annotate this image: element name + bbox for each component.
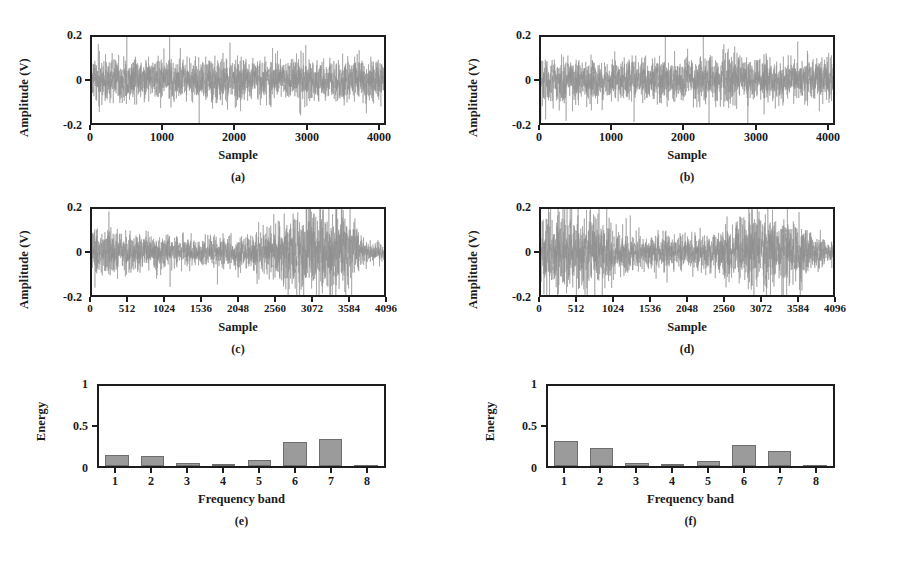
panel-f-caption: (f) — [546, 514, 835, 529]
panel-f-xtick-4: 5 — [705, 474, 711, 489]
panel-a-xlabel: Sample — [90, 148, 386, 163]
panel-f-xtick-1: 2 — [597, 474, 603, 489]
panel-f-xtick-mark-1 — [599, 468, 601, 473]
panel-b-xtick-0: 0 — [536, 130, 542, 145]
panel-f-xtick-7: 8 — [813, 474, 819, 489]
panel-f-bars — [548, 386, 833, 466]
panel-d-waveform — [541, 209, 833, 295]
panel-d-xtick-3: 1536 — [639, 302, 661, 314]
panel-d-ytick-0: 0.2 — [491, 200, 531, 215]
bar-band-3 — [625, 463, 649, 466]
panel-f-ylabel: Energy — [483, 387, 498, 457]
bar-band-4 — [661, 464, 685, 466]
panel-e-xtick-2: 3 — [184, 474, 190, 489]
panel-c-ytick-0: 0.2 — [42, 200, 82, 215]
panel-d-xlabel: Sample — [539, 320, 835, 335]
bar-band-1 — [554, 441, 578, 466]
panel-f-ytick-0: 1 — [499, 377, 537, 392]
panel-e-xtick-mark-2 — [186, 468, 188, 473]
panel-e: Energy 1 0.5 0 1 2 3 4 5 6 7 8 Frequency… — [0, 376, 449, 562]
panel-c-xtick-8: 4096 — [375, 302, 397, 314]
panel-e-ytick-1: 0.5 — [50, 419, 88, 434]
panel-b-xtick-3: 3000 — [744, 130, 768, 145]
panel-b-xtick-4: 4000 — [816, 130, 840, 145]
panel-e-caption: (e) — [97, 514, 386, 529]
panel-f-xtick-mark-3 — [671, 468, 673, 473]
panel-f-xtick-6: 7 — [777, 474, 783, 489]
panel-f-xtick-mark-6 — [779, 468, 781, 473]
figure-canvas: Amplitude (V) 0.2 0 -0.2 0 1000 2000 300… — [0, 0, 898, 562]
panel-c-ylabel: Amplitude (V) — [17, 225, 32, 315]
bar-band-2 — [141, 456, 165, 466]
panel-f-xtick-mark-5 — [743, 468, 745, 473]
bar-band-6 — [732, 445, 756, 466]
bar-band-5 — [697, 461, 721, 466]
panel-a-xtick-1: 1000 — [150, 130, 174, 145]
panel-b-xtick-2: 2000 — [671, 130, 695, 145]
panel-f-ytick-2: 0 — [499, 461, 537, 476]
panel-e-xtick-0: 1 — [112, 474, 118, 489]
panel-a-ytick-0: 0.2 — [42, 28, 82, 43]
panel-c-plot — [90, 207, 386, 297]
panel-f-xtick-mark-4 — [707, 468, 709, 473]
panel-c-caption: (c) — [90, 342, 386, 357]
panel-a-ytick-1: 0 — [42, 73, 82, 88]
panel-c-ytick-1: 0 — [42, 245, 82, 260]
panel-f-xtick-3: 4 — [669, 474, 675, 489]
panel-c-xtick-1: 512 — [119, 302, 136, 314]
panel-e-ylabel: Energy — [34, 387, 49, 457]
panel-c-xtick-6: 3072 — [301, 302, 323, 314]
bar-band-1 — [105, 455, 129, 466]
panel-a-xtick-4: 4000 — [367, 130, 391, 145]
panel-c-xtick-5: 2560 — [264, 302, 286, 314]
bar-band-7 — [768, 451, 792, 466]
panel-d-xtick-6: 3072 — [750, 302, 772, 314]
panel-f-xtick-mark-7 — [815, 468, 817, 473]
panel-f-xtick-0: 1 — [561, 474, 567, 489]
panel-b-ytick-1: 0 — [491, 73, 531, 88]
panel-d-xtick-8: 4096 — [824, 302, 846, 314]
panel-d-xtick-4: 2048 — [676, 302, 698, 314]
panel-e-xtick-mark-7 — [366, 468, 368, 473]
panel-f-xtick-mark-0 — [563, 468, 565, 473]
panel-b-ylabel: Amplitude (V) — [466, 53, 481, 143]
panel-f-xtick-mark-2 — [635, 468, 637, 473]
panel-b-plot — [539, 35, 835, 125]
panel-d-plot — [539, 207, 835, 297]
panel-d-xtick-7: 3584 — [787, 302, 809, 314]
panel-c-xtick-2: 1024 — [153, 302, 175, 314]
panel-d-xtick-0: 0 — [536, 302, 542, 314]
panel-d-xtick-1: 512 — [568, 302, 585, 314]
panel-b-waveform — [541, 37, 833, 123]
panel-e-xtick-5: 6 — [292, 474, 298, 489]
panel-d-ytick-2: -0.2 — [491, 290, 531, 305]
panel-d-xtick-2: 1024 — [602, 302, 624, 314]
panel-d-xtick-5: 2560 — [713, 302, 735, 314]
panel-a-waveform — [92, 37, 384, 123]
panel-e-xtick-4: 5 — [256, 474, 262, 489]
panel-b-caption: (b) — [539, 170, 835, 185]
panel-c-xlabel: Sample — [90, 320, 386, 335]
panel-e-xtick-1: 2 — [148, 474, 154, 489]
panel-c-xtick-0: 0 — [87, 302, 93, 314]
panel-e-xtick-7: 8 — [364, 474, 370, 489]
panel-b-xlabel: Sample — [539, 148, 835, 163]
panel-a-plot — [90, 35, 386, 125]
bar-band-6 — [283, 442, 307, 466]
panel-b-ytick-2: -0.2 — [491, 118, 531, 133]
panel-b-xtick-1: 1000 — [599, 130, 623, 145]
bar-band-8 — [803, 465, 827, 466]
bar-band-4 — [212, 464, 236, 466]
panel-b-ytick-0: 0.2 — [491, 28, 531, 43]
panel-a-xtick-3: 3000 — [295, 130, 319, 145]
panel-f-ytick-1: 0.5 — [499, 419, 537, 434]
panel-c-xtick-4: 2048 — [227, 302, 249, 314]
bar-band-3 — [176, 463, 200, 466]
panel-e-xtick-mark-3 — [222, 468, 224, 473]
panel-a-ylabel: Amplitude (V) — [17, 53, 32, 143]
panel-d-ylabel: Amplitude (V) — [466, 225, 481, 315]
panel-e-xtick-mark-4 — [258, 468, 260, 473]
panel-e-xlabel: Frequency band — [97, 492, 386, 507]
panel-b: Amplitude (V) 0.2 0 -0.2 0 1000 2000 300… — [449, 18, 898, 188]
panel-e-bars — [99, 386, 384, 466]
